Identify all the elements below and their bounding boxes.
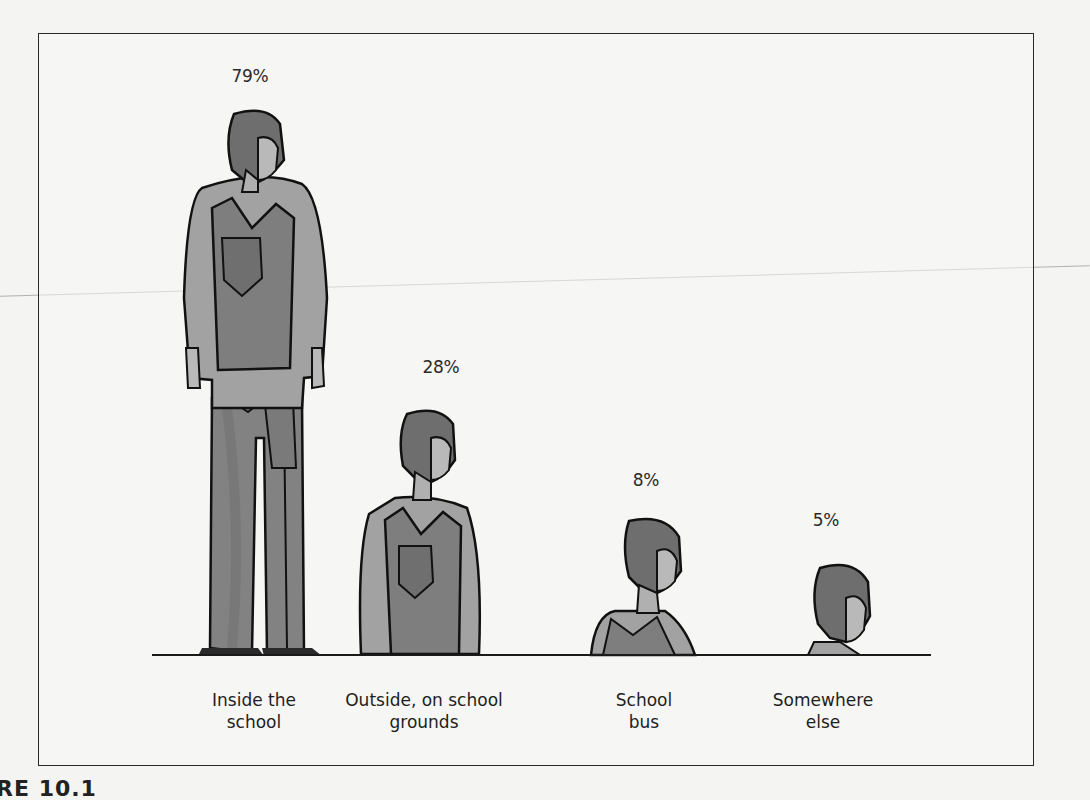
category-label-line: School	[616, 689, 672, 711]
student-figure-5	[800, 560, 910, 656]
category-label-line: Outside, on school	[345, 689, 503, 711]
category-label-line: Inside the	[212, 689, 296, 711]
value-label-school-bus: 8%	[633, 470, 659, 490]
category-label-line: school	[212, 711, 296, 733]
category-label-somewhere-else: Somewhere else	[773, 689, 873, 733]
category-label-inside-school: Inside the school	[212, 689, 296, 733]
category-label-line: bus	[616, 711, 672, 733]
value-label-outside-grounds: 28%	[423, 357, 460, 377]
chart-baseline	[152, 654, 931, 656]
category-label-school-bus: School bus	[616, 689, 672, 733]
category-label-line: Somewhere	[773, 689, 873, 711]
category-label-line: else	[773, 711, 873, 733]
student-figure-79	[172, 108, 342, 658]
category-label-outside-grounds: Outside, on school grounds	[345, 689, 503, 733]
value-label-somewhere-else: 5%	[813, 510, 839, 530]
student-figure-28	[355, 404, 485, 656]
category-label-line: grounds	[345, 711, 503, 733]
figure-caption-fragment: RE 10.1	[0, 776, 97, 800]
student-figure-8	[585, 515, 705, 656]
value-label-inside-school: 79%	[232, 66, 269, 86]
